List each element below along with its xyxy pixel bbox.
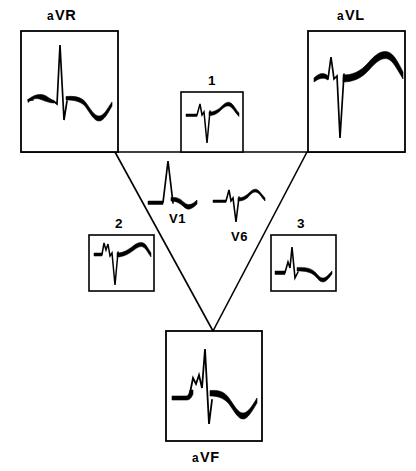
einthoven-triangle (21, 152, 405, 331)
waveform-V1-baseline (148, 201, 163, 205)
lead-label-aVF-main: VF (200, 449, 220, 465)
lead-label-aVF-prefix: a (192, 451, 200, 465)
lead-label-3: 3 (297, 217, 305, 231)
lead-panel-2 (89, 235, 154, 291)
lead-label-aVL-main: VL (345, 7, 365, 23)
lead-box-1 (181, 92, 243, 152)
lead-panel-3 (271, 235, 336, 291)
waveform-V1-t-wave (171, 197, 197, 209)
waveform-V6-t-wave (238, 189, 265, 201)
lead-label-aVL: aVL (337, 8, 365, 23)
lead-label-aVF: aVF (192, 450, 220, 465)
lead-label-aVL-prefix: a (337, 9, 345, 23)
ecg-drawing-layer (0, 0, 416, 471)
waveform-V1-qrs (163, 161, 173, 203)
lead-box-aVF (166, 331, 262, 441)
lead-label-1: 1 (208, 74, 216, 88)
lead-label-aVR: aVR (47, 8, 76, 23)
lead-box-3 (271, 235, 336, 291)
lead-label-V6: V6 (231, 230, 248, 243)
waveform-V6-qrs (226, 190, 239, 222)
lead-panel-aVR (21, 31, 118, 152)
waveform-3-baseline (275, 271, 285, 275)
waveform-1-baseline (186, 114, 197, 117)
waveform-V6-baseline (213, 200, 226, 203)
waveform-2-baseline (94, 253, 102, 256)
ecg-einthoven-figure: aVR aVL aVF 1 2 3 V1 V6 (0, 0, 416, 471)
lead-label-aVR-main: VR (55, 7, 76, 23)
lead-panel-aVL (308, 31, 405, 152)
lead-label-V1: V1 (169, 212, 186, 225)
lead-box-aVL (308, 31, 405, 152)
lead-label-aVR-prefix: a (47, 9, 55, 23)
lead-box-aVR (21, 31, 118, 152)
lead-panel-V6 (213, 189, 265, 222)
lead-panel-V1 (148, 161, 197, 209)
lead-panel-1 (181, 92, 243, 152)
lead-panel-aVF (166, 331, 262, 441)
lead-label-2: 2 (115, 217, 123, 231)
